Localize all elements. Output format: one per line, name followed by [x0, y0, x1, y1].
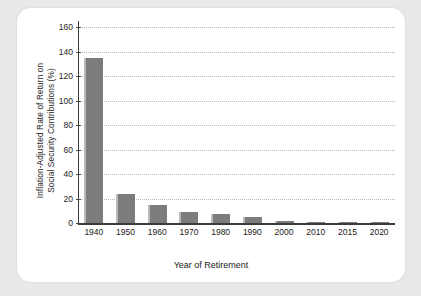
x-axis-tick-labels: 1940195019601970198019902000201020152020	[78, 8, 395, 282]
y-axis-tick-label: 80	[33, 120, 73, 130]
bar-chart: Inflation-Adjusted Rate of Return on Soc…	[17, 8, 405, 282]
y-axis-tick-label: 120	[33, 71, 73, 81]
y-axis-tick-label: 100	[33, 96, 73, 106]
x-axis-tick-label: 2020	[359, 227, 399, 237]
x-axis-label: Year of Retirement	[17, 260, 405, 270]
y-axis-tick-label: 40	[33, 169, 73, 179]
y-axis-tick-label: 20	[33, 194, 73, 204]
y-axis-tick-label: 160	[33, 22, 73, 32]
y-axis-tick-label: 60	[33, 145, 73, 155]
y-axis-tick-label: 0	[33, 218, 73, 228]
y-axis-tick-label: 140	[33, 47, 73, 57]
chart-panel: Inflation-Adjusted Rate of Return on Soc…	[17, 8, 405, 282]
y-axis-tick-labels: 020406080100120140160	[33, 8, 73, 282]
